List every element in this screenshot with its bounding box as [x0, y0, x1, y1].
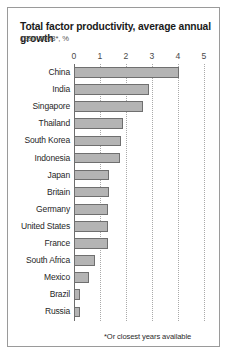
category-label: Thailand — [39, 118, 70, 128]
plot-area: 012345 ChinaIndiaSingaporeThailandSouth … — [74, 64, 204, 321]
chart-subtitle: 1990-2008*, % — [20, 34, 69, 43]
bar — [74, 84, 149, 95]
x-tick-label-4: 4 — [176, 51, 181, 61]
category-label: Mexico — [44, 272, 70, 282]
bar-row: Germany — [74, 201, 204, 218]
bar — [74, 136, 121, 147]
bar — [74, 153, 120, 164]
category-label: France — [44, 238, 70, 248]
bar — [74, 238, 108, 249]
bar-row: Indonesia — [74, 150, 204, 167]
bar-row: China — [74, 64, 204, 81]
x-tick-label-1: 1 — [98, 51, 103, 61]
bar-row: Britain — [74, 184, 204, 201]
category-label: South Korea — [24, 135, 70, 145]
bar-rows: ChinaIndiaSingaporeThailandSouth KoreaIn… — [74, 64, 204, 321]
x-tick-label-5: 5 — [202, 51, 207, 61]
bar-row: Mexico — [74, 269, 204, 286]
x-tick-label-2: 2 — [124, 51, 129, 61]
category-label: South Africa — [26, 255, 70, 265]
chart-footnote: *Or closest years available — [104, 332, 191, 341]
category-label: United States — [21, 221, 70, 231]
category-label: Japan — [48, 170, 70, 180]
bar — [74, 307, 80, 318]
category-label: Britain — [47, 187, 70, 197]
gridline-5 — [204, 64, 205, 321]
bar-row: France — [74, 235, 204, 252]
bar — [74, 289, 80, 300]
bar — [74, 170, 109, 181]
bar — [74, 187, 109, 198]
category-label: China — [49, 67, 70, 77]
bar-row: Thailand — [74, 115, 204, 132]
x-tick-label-3: 3 — [150, 51, 155, 61]
bar-row: Singapore — [74, 98, 204, 115]
bar-row: United States — [74, 218, 204, 235]
bar — [74, 255, 95, 266]
bar-row: South Africa — [74, 252, 204, 269]
category-label: Brazil — [50, 289, 70, 299]
bar-row: Brazil — [74, 286, 204, 303]
bar-row: India — [74, 81, 204, 98]
category-label: Indonesia — [34, 153, 70, 163]
bar — [74, 118, 123, 129]
x-tick-label-0: 0 — [72, 51, 77, 61]
chart-card: Total factor productivity, average annua… — [7, 7, 220, 347]
category-label: Singapore — [33, 101, 70, 111]
bar — [74, 67, 179, 78]
category-label: India — [52, 84, 70, 94]
bar-row: South Korea — [74, 132, 204, 149]
bar — [74, 204, 108, 215]
bar — [74, 272, 89, 283]
bar — [74, 101, 143, 112]
category-label: Germany — [36, 204, 70, 214]
x-axis-ticks: 012345 — [74, 51, 204, 64]
category-label: Russia — [45, 306, 70, 316]
bar — [74, 221, 108, 232]
bar-row: Russia — [74, 303, 204, 320]
bar-row: Japan — [74, 167, 204, 184]
